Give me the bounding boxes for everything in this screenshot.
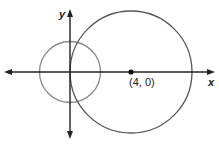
x-axis-right-arrow-icon — [207, 69, 215, 75]
x-axis-label: x — [208, 77, 214, 88]
point-marker — [128, 69, 133, 74]
coordinate-plane — [0, 0, 219, 144]
y-axis-down-arrow-icon — [67, 131, 73, 139]
y-axis-label: y — [59, 9, 65, 20]
point-label: (4, 0) — [129, 77, 155, 88]
y-axis-up-arrow-icon — [67, 9, 73, 17]
x-axis-left-arrow-icon — [4, 69, 12, 75]
